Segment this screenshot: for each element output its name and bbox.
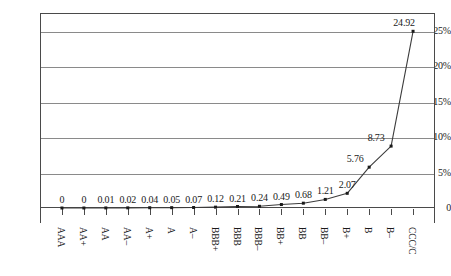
x-axis-tick bbox=[391, 209, 392, 215]
data-point-value-label: 0.12 bbox=[207, 194, 224, 204]
x-axis-category-label: BB+ bbox=[275, 227, 285, 245]
data-point-value-label: 8.73 bbox=[368, 133, 385, 143]
x-axis-tick bbox=[259, 209, 260, 215]
x-axis-tick bbox=[172, 209, 173, 215]
gridline bbox=[41, 32, 434, 33]
data-point-value-label: 0.07 bbox=[185, 195, 202, 205]
data-point-value-label: 0 bbox=[81, 195, 86, 205]
x-axis-tick bbox=[150, 209, 151, 215]
x-axis-category-label: BBB bbox=[232, 227, 242, 246]
x-axis-category-label: B bbox=[363, 227, 373, 233]
data-point-value-label: 0.01 bbox=[97, 195, 114, 205]
gridline bbox=[41, 67, 434, 68]
gridline bbox=[41, 174, 434, 175]
x-axis-tick bbox=[325, 209, 326, 215]
x-axis-category-label: A+ bbox=[144, 227, 154, 239]
x-axis-category-label: A bbox=[166, 227, 176, 234]
data-point-value-label: 2.07 bbox=[339, 180, 356, 190]
data-point-value-label: 0.49 bbox=[273, 192, 290, 202]
x-axis-tick bbox=[84, 209, 85, 215]
x-axis-category-label: BB bbox=[297, 227, 307, 239]
x-axis-tick bbox=[216, 209, 217, 215]
x-axis-tick bbox=[128, 209, 129, 215]
x-axis-tick bbox=[238, 209, 239, 215]
x-axis-category-label: BBB+ bbox=[210, 227, 220, 251]
plot-area bbox=[40, 13, 435, 208]
x-axis-tick bbox=[281, 209, 282, 215]
data-point-value-label: 0.04 bbox=[141, 195, 158, 205]
data-point-value-label: 0.68 bbox=[295, 190, 312, 200]
x-axis-tick bbox=[106, 209, 107, 215]
data-point-value-label: 1.21 bbox=[317, 186, 334, 196]
data-point-value-label: 0 bbox=[60, 195, 65, 205]
x-axis-tick bbox=[303, 209, 304, 215]
data-point-value-label: 5.76 bbox=[347, 154, 364, 164]
x-axis-tick bbox=[62, 209, 63, 215]
right-axis-lower-stub bbox=[434, 208, 435, 223]
x-axis-category-label: AAA bbox=[56, 227, 66, 247]
data-point-value-label: 0.21 bbox=[229, 194, 246, 204]
x-axis-tick bbox=[413, 209, 414, 215]
x-axis-tick bbox=[347, 209, 348, 215]
x-axis-category-label: B– bbox=[385, 227, 395, 238]
x-axis-category-label: B+ bbox=[341, 227, 351, 239]
x-axis-category-label: AA– bbox=[122, 227, 132, 245]
x-axis-category-label: AA bbox=[100, 227, 110, 241]
gridline bbox=[41, 103, 434, 104]
data-point-value-label: 0.02 bbox=[119, 195, 136, 205]
chart-container: 05%10%15%20%25% AAAAA+AAAA–A+AA–BBB+BBBB… bbox=[0, 0, 451, 276]
data-point-value-label: 24.92 bbox=[393, 18, 415, 28]
x-axis-category-label: BB– bbox=[319, 227, 329, 244]
x-axis-category-label: A– bbox=[188, 227, 198, 238]
data-point-value-label: 0.24 bbox=[251, 193, 268, 203]
x-axis-tick bbox=[369, 209, 370, 215]
x-axis-category-label: BBB– bbox=[253, 227, 263, 250]
data-point-value-label: 0.05 bbox=[163, 195, 180, 205]
x-axis-category-label: AA+ bbox=[78, 227, 88, 246]
x-axis-tick bbox=[194, 209, 195, 215]
y-axis-lower-stub bbox=[40, 208, 41, 223]
x-axis-category-label: CCC/C bbox=[407, 227, 417, 255]
